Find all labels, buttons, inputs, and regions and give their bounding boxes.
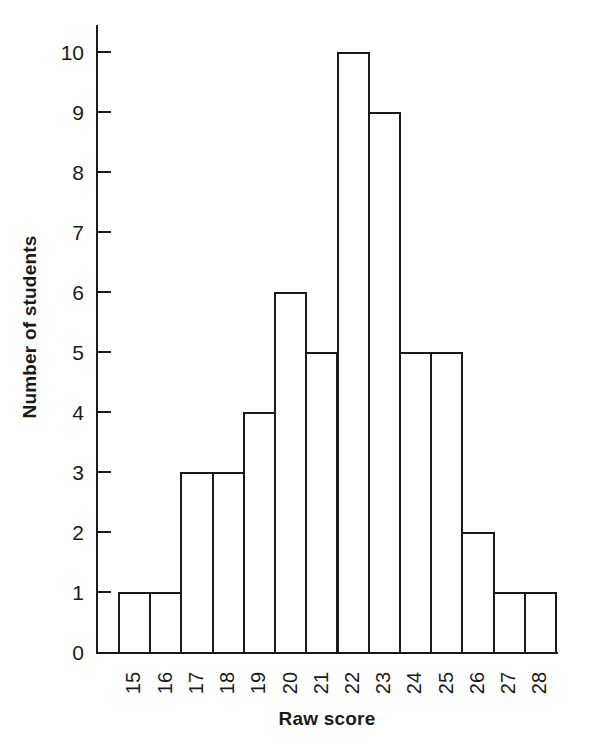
x-tick-label-26: 26	[461, 660, 492, 706]
x-tick-label-text: 26	[467, 672, 487, 694]
x-tick-label-20: 20	[274, 660, 305, 706]
x-axis-ticks: 1516171819202122232425262728	[118, 660, 555, 706]
bar-15	[118, 592, 151, 652]
x-tick-label-text: 27	[498, 672, 518, 694]
y-tick-mark	[98, 411, 111, 413]
bar-25	[430, 352, 463, 652]
x-tick-label-17: 17	[180, 660, 211, 706]
x-tick-label-text: 25	[436, 672, 456, 694]
x-tick-label-text: 24	[405, 672, 425, 694]
plot-area: 012345678910	[96, 25, 558, 654]
x-tick-label-text: 28	[529, 672, 549, 694]
y-axis-title-text: Number of students	[19, 235, 41, 418]
x-axis-title: Raw score	[96, 708, 558, 730]
y-tick-mark	[98, 291, 111, 293]
y-tick-label: 0	[72, 642, 84, 663]
x-tick-label-16: 16	[149, 660, 180, 706]
bar-18	[212, 472, 245, 652]
y-axis-title: Number of students	[0, 0, 60, 654]
y-tick-label: 10	[61, 42, 84, 63]
x-tick-label-text: 15	[124, 672, 144, 694]
y-tick-label: 9	[72, 102, 84, 123]
y-tick-mark	[98, 591, 111, 593]
bar-23	[368, 112, 401, 652]
y-tick-mark	[98, 531, 111, 533]
y-tick-label: 4	[72, 402, 84, 423]
x-tick-label-text: 16	[155, 672, 175, 694]
histogram-figure: Number of students 012345678910 15161718…	[0, 0, 595, 750]
bar-17	[180, 472, 213, 652]
x-tick-label-24: 24	[399, 660, 430, 706]
bar-16	[149, 592, 182, 652]
bar-27	[493, 592, 526, 652]
y-tick-label: 5	[72, 342, 84, 363]
y-tick-mark	[98, 231, 111, 233]
x-tick-label-text: 19	[248, 672, 268, 694]
bar-26	[461, 532, 494, 652]
x-tick-label-15: 15	[118, 660, 149, 706]
y-tick-mark	[98, 471, 111, 473]
y-axis-line	[96, 25, 98, 654]
y-tick-label: 7	[72, 222, 84, 243]
y-tick-mark	[98, 111, 111, 113]
y-tick-label: 3	[72, 462, 84, 483]
y-tick-label: 8	[72, 162, 84, 183]
x-tick-label-text: 17	[186, 672, 206, 694]
y-tick-label: 6	[72, 282, 84, 303]
bar-22	[337, 52, 370, 652]
bar-19	[243, 412, 276, 652]
x-tick-label-text: 18	[217, 672, 237, 694]
y-tick-mark	[98, 171, 111, 173]
y-tick-mark	[98, 51, 111, 53]
y-tick-label: 2	[72, 522, 84, 543]
x-tick-label-21: 21	[305, 660, 336, 706]
y-tick-mark	[98, 351, 111, 353]
x-tick-label-text: 23	[373, 672, 393, 694]
bars-group	[118, 25, 555, 652]
x-tick-label-text: 21	[311, 672, 331, 694]
x-tick-label-27: 27	[493, 660, 524, 706]
y-tick-label: 1	[72, 582, 84, 603]
x-tick-label-22: 22	[337, 660, 368, 706]
bar-21	[305, 352, 338, 652]
x-tick-label-19: 19	[243, 660, 274, 706]
x-tick-label-text: 22	[342, 672, 362, 694]
x-axis-line	[96, 652, 558, 654]
x-tick-label-23: 23	[368, 660, 399, 706]
x-tick-label-text: 20	[280, 672, 300, 694]
bar-20	[274, 292, 307, 652]
bar-24	[399, 352, 432, 652]
x-tick-label-28: 28	[524, 660, 555, 706]
x-tick-label-18: 18	[212, 660, 243, 706]
bar-28	[524, 592, 557, 652]
x-tick-label-25: 25	[430, 660, 461, 706]
